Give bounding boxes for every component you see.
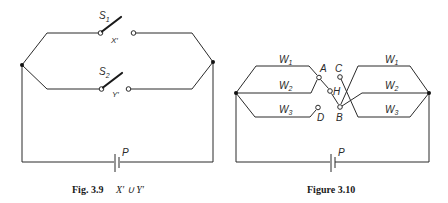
- figure-3-9-caption-expression: X′ ∪ Y′: [115, 184, 145, 195]
- s2-label: S2: [99, 66, 110, 79]
- label-a: A: [319, 63, 327, 74]
- figure-3-10: A C H B D W1 W2 W3 W1 W2 W3 P Figure 3.1…: [234, 54, 431, 195]
- contact-d[interactable]: [316, 105, 321, 110]
- battery-label: P: [122, 147, 129, 158]
- contact-h[interactable]: [328, 89, 333, 94]
- figure-3-10-caption: Figure 3.10: [307, 184, 355, 195]
- left-w2-label: W2: [279, 80, 292, 92]
- battery-icon-fig10: [331, 154, 335, 172]
- s1-right-contact: [131, 31, 136, 36]
- contact-a[interactable]: [317, 75, 322, 80]
- left-w3-wire: [236, 93, 316, 117]
- left-junction-node: [20, 63, 24, 67]
- contact-b[interactable]: [338, 105, 343, 110]
- right-loop-wire-fig10: [335, 93, 429, 162]
- label-d: D: [317, 112, 324, 123]
- right-w2-label: W2: [385, 80, 398, 92]
- left-w1-wire: [236, 66, 317, 93]
- left-w1-label: W1: [279, 54, 292, 66]
- left-w3-label: W3: [279, 104, 292, 116]
- figure-3-9-caption-number: Fig. 3.9: [72, 184, 103, 195]
- battery-icon: [115, 154, 119, 172]
- s1-label: S1: [99, 10, 110, 23]
- circuit-diagrams: S1 X′ S2 Y′ P Fig. 3.9 X′ ∪ Y′: [0, 0, 448, 203]
- top-branch-right-wire: [136, 33, 213, 62]
- figure-3-9: S1 X′ S2 Y′ P Fig. 3.9 X′ ∪ Y′: [20, 10, 215, 195]
- label-b: B: [336, 112, 343, 123]
- bottom-branch-left-wire: [22, 65, 99, 89]
- left-loop-wire: [22, 65, 114, 162]
- right-w3-label: W3: [385, 104, 398, 116]
- right-w1-label: W1: [385, 54, 398, 66]
- switch-arm-a-h: [321, 80, 329, 89]
- left-w2-wire: [236, 80, 317, 93]
- x-prime-label: X′: [110, 36, 118, 45]
- label-h: H: [333, 86, 341, 97]
- right-junction-node: [211, 60, 215, 64]
- battery-label-fig10: P: [338, 147, 345, 158]
- label-c: C: [335, 63, 343, 74]
- top-branch-left-wire: [22, 33, 98, 65]
- right-junction-node-fig10: [427, 91, 431, 95]
- left-junction-node-fig10: [234, 91, 238, 95]
- s2-right-contact: [126, 87, 131, 92]
- contact-c[interactable]: [338, 75, 343, 80]
- bottom-branch-right-wire: [131, 62, 213, 89]
- right-loop-wire: [120, 62, 213, 162]
- y-prime-label: Y′: [112, 90, 119, 99]
